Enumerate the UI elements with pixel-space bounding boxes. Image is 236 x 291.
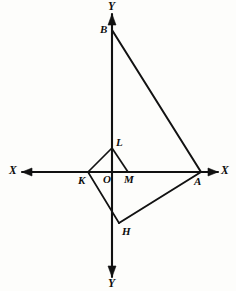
point-label-O: O	[103, 174, 111, 185]
diagram-canvas: X X Y Y B L K O M A H	[0, 0, 236, 291]
y-axis-bottom-arrowhead-icon	[108, 266, 116, 277]
point-label-B: B	[100, 24, 107, 35]
point-label-H: H	[122, 226, 131, 237]
point-label-L: L	[116, 137, 123, 148]
y-axis-top-arrowhead-icon	[108, 14, 116, 25]
point-label-A: A	[194, 176, 201, 187]
x-axis-right-arrowhead-icon	[208, 168, 218, 176]
x-axis-left-arrowhead-icon	[22, 168, 32, 176]
point-label-M: M	[124, 174, 134, 185]
segment-K-L	[88, 148, 112, 172]
segment-B-A	[112, 30, 201, 172]
x-axis-right-label: X	[221, 165, 229, 177]
point-label-K: K	[78, 175, 85, 186]
y-axis-bottom-label: Y	[108, 278, 115, 290]
x-axis-left-label: X	[9, 165, 17, 177]
segment-L-M	[112, 148, 128, 172]
y-axis-top-label: Y	[108, 1, 115, 13]
